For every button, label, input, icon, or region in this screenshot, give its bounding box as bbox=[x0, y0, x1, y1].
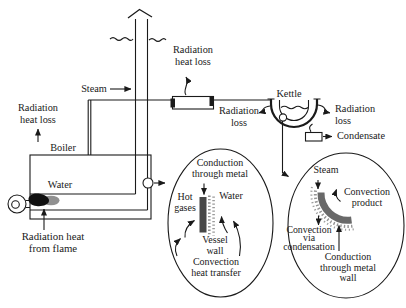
boiler-wall-tap-point bbox=[143, 178, 153, 188]
heat-transfer-diagram: Radiation heat loss Steam Radiation heat… bbox=[0, 0, 406, 308]
detail-water-label: Water bbox=[219, 191, 243, 202]
radiation-arrow-kettle-right bbox=[318, 105, 330, 113]
burner-icon bbox=[8, 195, 30, 213]
condensate-label: Condensate bbox=[337, 130, 385, 142]
radiation-arrow-top bbox=[185, 77, 187, 95]
vessel-wall-bar bbox=[200, 197, 207, 233]
convection-product-label: Convection product bbox=[344, 187, 390, 209]
convection-via-condensation-label: Convection via condensation bbox=[283, 226, 335, 251]
radiation-heat-from-flame-label: Radiation heat from flame bbox=[22, 231, 85, 255]
radiation-heat-loss-top-label: Radiation heat loss bbox=[173, 44, 213, 67]
condensate-trap bbox=[306, 124, 333, 141]
kettle-jacket-tap-point bbox=[279, 114, 286, 121]
boiler-label: Boiler bbox=[50, 142, 76, 154]
steam-wave-left-icon bbox=[110, 38, 133, 41]
kettle-label: Kettle bbox=[276, 88, 301, 100]
steam-vent-chevron-icon bbox=[128, 10, 152, 19]
radiation-arrow-kettle-left bbox=[259, 106, 270, 113]
steam-wave-right-icon bbox=[149, 39, 166, 42]
radiation-loss-kettle-right-label: Radiation loss bbox=[335, 103, 375, 126]
flame-icon bbox=[28, 193, 59, 206]
hot-gases-label: Hot gases bbox=[174, 192, 196, 214]
radiation-heat-loss-left-label: Radiation heat loss bbox=[18, 102, 58, 125]
conduction-through-metal-label: Conduction through metal bbox=[192, 158, 248, 180]
kettle-water-wave-icon bbox=[281, 106, 308, 108]
convection-heat-transfer-label: Convection heat transfer bbox=[191, 257, 241, 279]
kettle-detail-callout-arrow bbox=[283, 121, 289, 177]
steam-pipe-label: Steam bbox=[81, 83, 107, 95]
vessel-wall-label: Vessel wall bbox=[202, 235, 228, 257]
radiation-loss-kettle-left-label: Radiation loss bbox=[219, 105, 259, 128]
conduction-through-metal-wall-label: Conduction through metal wall bbox=[320, 252, 376, 284]
water-label: Water bbox=[48, 179, 72, 191]
pipe-lagging-section bbox=[171, 77, 215, 109]
steam-stack bbox=[110, 10, 166, 211]
detail-steam-label: Steam bbox=[314, 165, 339, 176]
